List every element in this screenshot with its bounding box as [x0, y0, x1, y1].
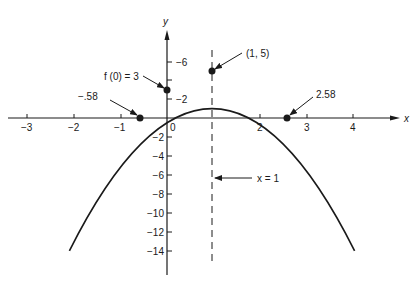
right-root-arrow: [290, 97, 313, 115]
y-tick-label: −6: [176, 57, 188, 68]
x-tick-label: −3: [21, 122, 33, 133]
vertex-label: (1, 5): [246, 48, 269, 59]
axis-of-symmetry-label: x = 1: [257, 173, 279, 184]
left-root-arrow: [110, 100, 137, 115]
x-axis: x −3 −2 −1 0 2 3 4: [8, 113, 410, 133]
y-tick-label: −6: [153, 170, 165, 181]
y-tick-label: −8: [153, 189, 165, 200]
left-root-label: −.58: [78, 91, 98, 102]
parabola-curve: [69, 109, 354, 251]
y-axis-label: y: [162, 16, 169, 27]
y-intercept-point: [164, 87, 171, 94]
y-tick-label: −2: [176, 94, 188, 105]
vertex-arrow: [215, 53, 242, 69]
x-tick-label: 3: [304, 122, 310, 133]
y-tick-label: −14: [147, 246, 164, 257]
y-tick-label: −4: [153, 151, 165, 162]
right-root-point: [284, 115, 291, 122]
y-intercept-arrow: [143, 76, 164, 88]
x-axis-arrow-icon: [390, 116, 400, 121]
vertex-point: [209, 68, 216, 75]
y-axis-arrow-icon: [165, 30, 170, 40]
right-root-label: 2.58: [316, 89, 336, 100]
y-tick-label: −2: [153, 132, 165, 143]
y-tick-label: −12: [147, 227, 164, 238]
x-tick-label: 4: [350, 122, 356, 133]
x-tick-label: −1: [114, 122, 126, 133]
x-tick-label: −2: [68, 122, 80, 133]
y-tick-label: −10: [147, 208, 164, 219]
x-tick-label: 0: [170, 122, 176, 133]
parabola-chart: x −3 −2 −1 0 2 3 4 y −6 −2 −2 −4: [0, 0, 417, 290]
x-axis-label: x: [403, 113, 410, 124]
y-axis: y −6 −2 −2 −4 −6 −8 −10 −12 −14: [147, 16, 188, 275]
left-root-point: [137, 115, 144, 122]
y-intercept-label: f (0) = 3: [104, 71, 139, 82]
